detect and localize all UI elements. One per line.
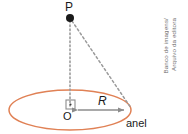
center-point-dot: [69, 103, 71, 105]
center-o-label: O: [63, 111, 72, 122]
ring-label: anel: [126, 118, 147, 129]
radius-label: R: [98, 95, 107, 107]
point-p-dot: [66, 14, 74, 22]
ring-diagram-svg: [0, 0, 188, 134]
credit-line-1: Banco de imagens/: [161, 18, 169, 74]
credit-line-2: Arquivo da editora: [169, 18, 177, 71]
image-credit: Banco de imagens/ Arquivo da editora: [161, 0, 187, 134]
figure-container: P O R anel Banco de imagens/ Arquivo da …: [0, 0, 188, 134]
point-p-label: P: [65, 1, 73, 13]
